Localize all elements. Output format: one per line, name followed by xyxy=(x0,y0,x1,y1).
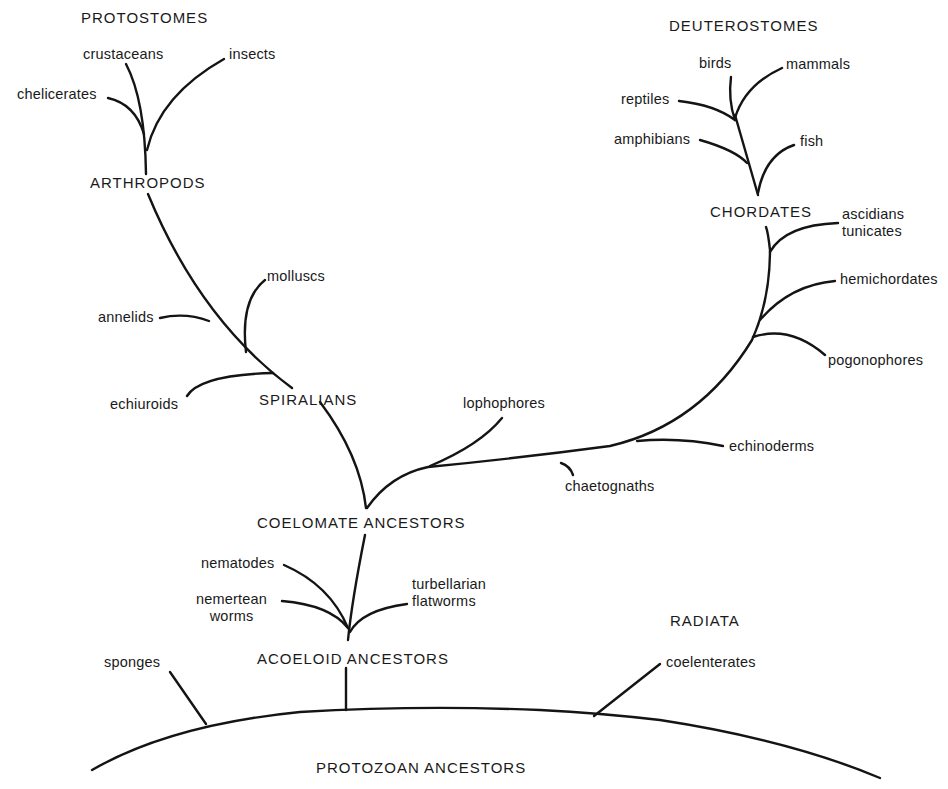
branch-coelenterates xyxy=(594,664,660,716)
leaf-annelids: annelids xyxy=(98,309,154,326)
branch-nemertean xyxy=(282,601,348,628)
node-spiralians: SPIRALIANS xyxy=(259,391,357,408)
group-radiata: RADIATA xyxy=(670,612,740,629)
branch-sponges xyxy=(170,672,206,724)
branch-hemichordates xyxy=(760,281,835,320)
branch-reptiles xyxy=(679,101,735,120)
branch-turbellarian xyxy=(350,604,407,632)
leaf-pogonophores: pogonophores xyxy=(828,352,923,369)
leaf-crustaceans: crustaceans xyxy=(83,46,163,63)
leaf-nematodes: nematodes xyxy=(201,555,275,572)
leaf-nemertean-worms: nemertean worms xyxy=(196,591,267,625)
leaf-insects: insects xyxy=(229,46,276,63)
leaf-fish: fish xyxy=(800,133,823,150)
node-coelomate-ancestors: COELOMATE ANCESTORS xyxy=(257,514,466,531)
leaf-ascidians-tunicates: ascidians tunicates xyxy=(842,206,904,240)
leaf-nemertean: nemertean xyxy=(196,591,267,608)
branch-pogonophores xyxy=(753,334,825,355)
leaf-echiuroids: echiuroids xyxy=(110,396,178,413)
leaf-flatworms: flatworms xyxy=(412,593,486,610)
leaf-ascidians: ascidians xyxy=(842,206,904,223)
leaf-amphibians: amphibians xyxy=(614,131,690,148)
leaf-reptiles: reptiles xyxy=(621,91,669,108)
leaf-tunicates: tunicates xyxy=(842,223,904,240)
group-protostomes: PROTOSTOMES xyxy=(81,9,208,26)
branch-fish xyxy=(758,145,794,193)
branch-ascidians xyxy=(770,223,838,252)
node-chordates: CHORDATES xyxy=(710,203,812,220)
leaf-turbellarian: turbellarian xyxy=(412,576,486,593)
leaf-chelicerates: chelicerates xyxy=(17,86,97,103)
leaf-hemichordates: hemichordates xyxy=(840,271,938,288)
leaf-worms: worms xyxy=(196,608,267,625)
leaf-chaetognaths: chaetognaths xyxy=(565,478,654,495)
leaf-lophophores: lophophores xyxy=(463,395,545,412)
stem-spiralians-to-arthropods xyxy=(148,194,292,388)
leaf-coelenterates: coelenterates xyxy=(666,654,756,671)
branch-molluscs xyxy=(245,280,265,352)
leaf-molluscs: molluscs xyxy=(267,268,325,285)
leaf-echinoderms: echinoderms xyxy=(729,438,814,455)
leaf-turbellarian-flatworms: turbellarian flatworms xyxy=(412,576,486,610)
group-deuterostomes: DEUTEROSTOMES xyxy=(669,17,818,34)
node-acoeloid-ancestors: ACOELOID ANCESTORS xyxy=(257,650,449,667)
branch-echinoderms xyxy=(637,440,723,446)
stem-arthropods xyxy=(126,64,146,174)
branch-mammals xyxy=(735,68,782,118)
branch-chaetognaths xyxy=(561,463,573,475)
node-arthropods: ARTHROPODS xyxy=(90,174,206,191)
leaf-mammals: mammals xyxy=(786,56,850,73)
branch-birds xyxy=(730,77,735,120)
leaf-birds: birds xyxy=(699,55,731,72)
stem-coelomate-to-spiralians xyxy=(320,402,366,508)
branch-amphibians xyxy=(700,140,747,163)
node-protozoan-ancestors: PROTOZOAN ANCESTORS xyxy=(316,759,526,776)
branch-insects xyxy=(147,59,224,150)
leaf-sponges: sponges xyxy=(104,654,160,671)
branch-annelids xyxy=(160,316,209,321)
branch-lophophores xyxy=(430,418,502,466)
